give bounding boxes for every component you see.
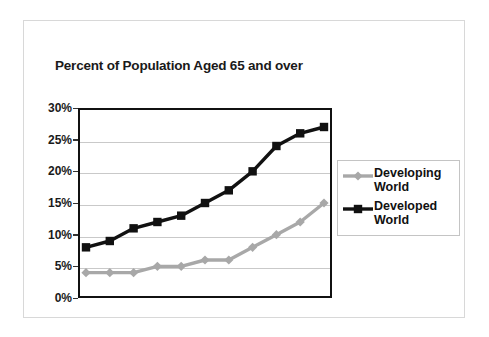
legend-item-developed-world[interactable]: Developed World [342, 199, 437, 227]
square-marker-icon [342, 201, 374, 217]
data-point-marker [106, 237, 114, 245]
data-point-marker [200, 255, 209, 264]
data-point-marker [82, 243, 90, 251]
y-axis-tick-label: 5% [26, 259, 72, 273]
legend[interactable]: Developing WorldDeveloped World [337, 160, 460, 236]
y-axis-tick-label: 30% [26, 101, 72, 115]
data-point-marker [81, 268, 90, 277]
y-axis-tick-label: 20% [26, 164, 72, 178]
data-point-marker [225, 186, 233, 194]
data-point-marker [248, 167, 256, 175]
legend-label: Developed World [374, 199, 437, 227]
legend-label: Developing World [374, 166, 441, 194]
data-point-marker [320, 123, 328, 131]
series-plot [78, 108, 332, 298]
data-point-marker [129, 224, 137, 232]
data-point-marker [177, 211, 185, 219]
chart-screenshot: Percent of Population Aged 65 and over 0… [0, 0, 489, 337]
legend-item-developing-world[interactable]: Developing World [342, 166, 441, 194]
data-point-marker [296, 129, 304, 137]
data-point-marker [272, 142, 280, 150]
y-axis-tick-label: 15% [26, 196, 72, 210]
y-axis-tick-label: 0% [26, 291, 72, 305]
data-point-marker [153, 262, 162, 271]
data-point-marker [153, 218, 161, 226]
data-point-marker [105, 268, 114, 277]
diamond-marker-icon [342, 168, 374, 184]
data-point-marker [129, 268, 138, 277]
y-axis-tick-label: 10% [26, 228, 72, 242]
y-axis-tick-label: 25% [26, 133, 72, 147]
data-point-marker [177, 262, 186, 271]
data-point-marker [201, 199, 209, 207]
